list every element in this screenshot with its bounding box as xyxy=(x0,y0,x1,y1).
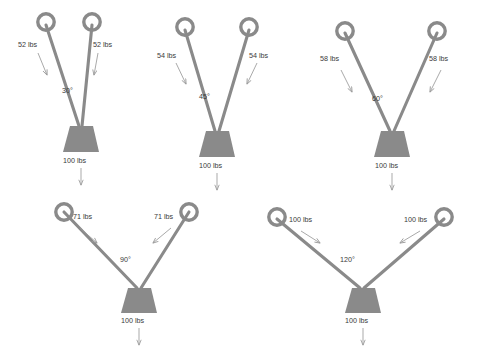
right-tension-label: 52 lbs xyxy=(93,40,113,49)
left-tension-label: 100 lbs xyxy=(289,215,313,224)
diagram-120: 100 lbs 100 lbs 120° 100 lbs xyxy=(269,209,452,345)
weight-block xyxy=(199,131,235,157)
weight-block xyxy=(374,131,410,157)
left-ring-icon xyxy=(269,209,285,225)
left-force-arrow xyxy=(38,53,47,75)
left-tension-label: 71 lbs xyxy=(73,212,93,221)
right-rope xyxy=(219,30,249,131)
weight-block xyxy=(63,126,99,152)
right-ring-icon xyxy=(436,209,452,225)
left-ring-icon xyxy=(337,23,353,39)
weight-label: 100 lbs xyxy=(375,161,399,170)
weight-block xyxy=(121,288,157,313)
left-tension-label: 52 lbs xyxy=(18,40,38,49)
left-force-arrow xyxy=(176,63,186,84)
left-rope xyxy=(46,25,79,126)
left-rope xyxy=(64,212,137,288)
left-tension-label: 54 lbs xyxy=(157,51,177,60)
right-force-arrow xyxy=(430,70,441,92)
right-rope xyxy=(394,33,437,131)
right-tension-label: 54 lbs xyxy=(249,51,269,60)
weight-label: 100 lbs xyxy=(345,316,369,325)
diagram-60: 58 lbs 58 lbs 60° 100 lbs xyxy=(320,23,449,190)
right-force-arrow xyxy=(94,53,98,75)
left-rope xyxy=(345,33,390,131)
left-tension-label: 58 lbs xyxy=(320,54,340,63)
angle-label: 60° xyxy=(372,94,383,103)
left-force-arrow xyxy=(80,228,97,243)
weight-label: 100 lbs xyxy=(63,156,87,165)
right-tension-label: 100 lbs xyxy=(404,215,428,224)
right-tension-label: 71 lbs xyxy=(154,212,174,221)
diagram-30: 52 lbs 52 lbs 30° 100 lbs xyxy=(18,14,113,185)
diagram-canvas: 52 lbs 52 lbs 30° 100 lbs 54 lbs 54 lbs … xyxy=(0,0,481,349)
left-force-arrow xyxy=(341,70,352,92)
angle-label: 90° xyxy=(120,255,131,264)
left-rope xyxy=(277,219,360,288)
right-tension-label: 58 lbs xyxy=(429,54,449,63)
weight-block xyxy=(345,288,381,313)
angle-label: 30° xyxy=(62,86,73,95)
angle-label: 120° xyxy=(340,255,355,264)
weight-label: 100 lbs xyxy=(199,161,223,170)
right-rope xyxy=(82,25,92,126)
weight-label: 100 lbs xyxy=(121,316,145,325)
diagram-90: 71 lbs 71 lbs 90° 100 lbs xyxy=(56,204,197,345)
angle-label: 45° xyxy=(199,92,210,101)
left-rope xyxy=(185,30,215,131)
rigging-diagram-svg: 52 lbs 52 lbs 30° 100 lbs 54 lbs 54 lbs … xyxy=(0,0,481,349)
right-rope xyxy=(364,219,444,288)
right-force-arrow xyxy=(153,228,171,243)
right-rope xyxy=(141,212,189,288)
right-force-arrow xyxy=(247,63,257,84)
diagram-45: 54 lbs 54 lbs 45° 100 lbs xyxy=(157,19,269,190)
